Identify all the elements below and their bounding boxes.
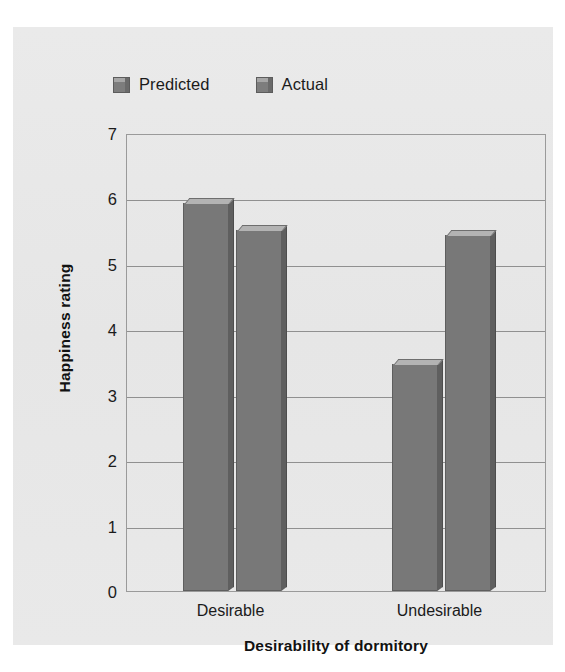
y-tick-label: 1 [83, 517, 117, 536]
figure-panel: Predicted Actual 01234567 Happiness rati… [13, 27, 553, 645]
y-tick-label: 4 [83, 321, 117, 340]
bar-top [237, 225, 287, 231]
x-axis-title: Desirability of dormitory [126, 637, 546, 655]
bar-top [184, 198, 234, 204]
bar-predicted-desirable [183, 203, 228, 591]
legend-swatch-actual-icon [256, 77, 273, 93]
bar-face [445, 235, 490, 591]
y-tick-label: 6 [83, 190, 117, 209]
y-tick-label: 0 [83, 583, 117, 602]
bar-actual-undesirable [445, 235, 490, 591]
bar-predicted-undesirable [392, 364, 437, 591]
bar-face [236, 230, 281, 591]
x-category-label: Desirable [197, 602, 265, 620]
bar-side [437, 360, 443, 592]
legend-swatch-predicted-icon [113, 77, 130, 93]
bar-side [490, 231, 496, 592]
y-tick-label: 2 [83, 452, 117, 471]
y-axis-title: Happiness rating [56, 228, 74, 428]
y-tick-label: 5 [83, 255, 117, 274]
bar-face [392, 364, 437, 591]
bar-top [446, 230, 496, 236]
legend-item-predicted: Predicted [113, 75, 210, 94]
bar-top [393, 359, 443, 365]
y-tick-label: 3 [83, 386, 117, 405]
bar-face [183, 203, 228, 591]
chart-legend: Predicted Actual [113, 75, 328, 94]
legend-label-actual: Actual [282, 75, 328, 94]
bar-actual-desirable [236, 230, 281, 591]
bar-side [228, 199, 234, 592]
y-tick-label: 7 [83, 125, 117, 144]
x-category-label: Undesirable [397, 602, 482, 620]
plot-area [126, 134, 546, 592]
y-axis-tick-labels: 01234567 [81, 134, 117, 592]
bar-side [281, 225, 287, 591]
legend-item-actual: Actual [256, 75, 328, 94]
legend-label-predicted: Predicted [139, 75, 210, 94]
